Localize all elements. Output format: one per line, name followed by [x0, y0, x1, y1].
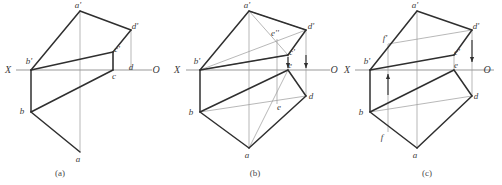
edge-c-8 [370, 112, 417, 148]
point-label-b-prime-c: b' [364, 56, 372, 66]
point-label-c-a: c [112, 71, 116, 81]
panel-c: XOa'd'f'c'b'edbfa [343, 0, 494, 160]
point-label-a-prime-b: a' [244, 0, 252, 10]
edge-c-1 [417, 11, 472, 30]
panel-a: XOa'd'c'b'cbad [4, 0, 160, 164]
point-label-a-b: a [245, 150, 250, 160]
arrow-head [304, 63, 308, 68]
point-label-d-prime-c: d' [473, 21, 481, 31]
edge-c-6 [454, 70, 472, 96]
axis-label-x-c: X [343, 64, 351, 75]
edge-a-5 [31, 70, 113, 112]
point-label-e-c: e [454, 60, 458, 70]
point-label-b-c: b [359, 107, 364, 117]
point-label-d-b: d [309, 91, 314, 101]
edge-b-8 [200, 112, 249, 148]
point-label-a-prime-a: a' [75, 0, 83, 10]
axis-label-o-c: O [483, 64, 490, 75]
point-label-a-prime-c: a' [412, 0, 420, 10]
point-label-f-c: f [381, 132, 385, 142]
edge-c-7 [417, 96, 472, 148]
axis-label-o-b: O [330, 64, 337, 75]
point-label-b-prime-b: b' [194, 56, 202, 66]
point-label-c-prime-b: c' [289, 47, 296, 57]
point-label-b-a: b [20, 106, 25, 116]
construction-line-b-7 [249, 70, 288, 148]
arrow-head [386, 74, 390, 79]
edge-c-3 [370, 55, 454, 70]
projection-arrow-f-up-c [386, 74, 390, 95]
point-label-b-b: b [189, 107, 194, 117]
edge-a-7 [31, 112, 80, 152]
point-label-e-prime-upper-b: e'' [271, 28, 280, 38]
point-label-e-upper-b: e [288, 60, 292, 70]
point-label-a-c: a [413, 150, 418, 160]
caption-c: (c) [422, 168, 432, 178]
edge-b-3 [200, 55, 288, 70]
point-label-d-prime-b: d' [308, 21, 316, 31]
point-label-d-c: d [474, 91, 479, 101]
axis-label-x-a: X [4, 64, 12, 75]
point-label-d-a: d [129, 62, 134, 72]
projection-arrow-d-b [304, 55, 308, 68]
point-label-d-prime-a: d' [132, 21, 140, 31]
caption-b: (b) [250, 168, 261, 178]
figure-canvas: XOa'd'c'b'cbadXOa'd'e''c'b'edebaXOa'd'f'… [0, 0, 502, 185]
point-label-f-prime-c: f' [383, 33, 389, 43]
point-label-c-prime-c: c' [454, 47, 461, 57]
point-label-b-prime-a: b' [26, 56, 34, 66]
point-label-a-a: a [76, 154, 81, 164]
edge-b-6 [288, 70, 306, 96]
caption-a: (a) [55, 168, 65, 178]
arrow-head [470, 57, 474, 62]
point-label-e-lower-b: e [277, 102, 281, 112]
axis-label-o-a: O [152, 64, 159, 75]
orthographic-projection-diagram: XOa'd'c'b'cbadXOa'd'e''c'b'edebaXOa'd'f'… [0, 0, 502, 185]
panel-b: XOa'd'e''c'b'edeba [173, 0, 338, 160]
axis-label-x-b: X [173, 64, 181, 75]
point-label-c-prime-a: c' [114, 44, 121, 54]
edge-b-0 [200, 11, 249, 70]
edge-a-1 [80, 11, 131, 30]
projection-arrow-d-down-c [470, 40, 474, 62]
